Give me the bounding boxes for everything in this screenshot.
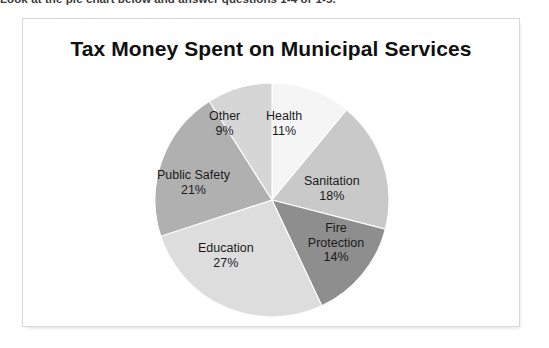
pie-chart-svg: [154, 78, 390, 323]
pie-chart: Health11%Sanitation18%Fire Protection14%…: [154, 78, 390, 323]
chart-title: Tax Money Spent on Municipal Services: [23, 37, 519, 61]
pie-slice-group: [155, 83, 389, 317]
chart-frame: Tax Money Spent on Municipal Services He…: [22, 18, 520, 327]
worksheet-instruction-text: Look at the pie chart below and answer q…: [0, 0, 549, 7]
chart-canvas: Tax Money Spent on Municipal Services He…: [23, 19, 519, 326]
